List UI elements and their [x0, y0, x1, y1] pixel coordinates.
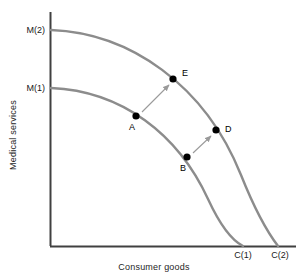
ppf-plot-area: A B E D M(2) M(1) C(1) C(2) [0, 0, 308, 280]
data-point-label-d: D [225, 124, 232, 134]
frontier-curve-inner [51, 88, 243, 246]
data-point-b [183, 153, 190, 160]
y-intercept-label-inner: M(1) [27, 83, 46, 93]
x-intercept-label-outer: C(2) [271, 250, 289, 260]
data-point-label-b: B [180, 163, 186, 173]
ppf-chart: A B E D M(2) M(1) C(1) C(2) Consumer goo… [0, 0, 308, 280]
data-point-d [212, 126, 219, 133]
data-point-label-e: E [182, 68, 188, 78]
data-point-e [169, 75, 176, 82]
y-axis-title: Medical services [8, 70, 18, 200]
data-point-label-a: A [129, 122, 135, 132]
y-intercept-label-outer: M(2) [27, 25, 46, 35]
arrow-b-to-d [193, 136, 211, 153]
x-intercept-label-inner: C(1) [234, 250, 252, 260]
data-point-a [132, 112, 139, 119]
arrow-a-to-e [142, 85, 169, 112]
x-axis-title: Consumer goods [0, 262, 308, 272]
